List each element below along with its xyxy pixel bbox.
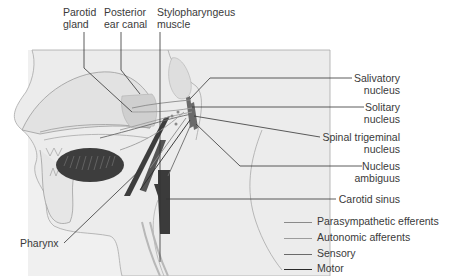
- label-line: nucleus: [364, 113, 400, 125]
- legend-swatch: [284, 269, 312, 270]
- legend-swatch: [284, 238, 312, 239]
- label-line: Parotid: [63, 6, 96, 18]
- label-line: nucleus: [354, 84, 400, 96]
- label-line: muscle: [157, 18, 235, 30]
- legend-swatch: [284, 254, 312, 255]
- legend-item-autonomic: Autonomic afferents: [284, 231, 410, 243]
- label-salivatory-nucleus: Salivatory nucleus: [354, 72, 400, 96]
- label-carotid-sinus: Carotid sinus: [339, 193, 400, 205]
- label-stylopharyngeus-muscle: Stylopharyngeus muscle: [157, 6, 235, 30]
- legend-label: Motor: [317, 262, 344, 274]
- label-parotid-gland: Parotid gland: [63, 6, 96, 30]
- legend-label: Sensory: [317, 247, 356, 259]
- label-line: ambiguus: [354, 172, 400, 184]
- legend-swatch: [284, 222, 312, 223]
- label-line: Solitary: [364, 101, 400, 113]
- legend-item-motor: Motor: [284, 262, 344, 274]
- label-line: Spinal trigeminal: [322, 131, 400, 143]
- legend-label: Parasympathetic efferents: [317, 215, 439, 227]
- label-line: nucleus: [322, 143, 400, 155]
- label-line: Stylopharyngeus: [157, 6, 235, 18]
- legend-label: Autonomic afferents: [317, 231, 410, 243]
- label-nucleus-ambiguus: Nucleus ambiguus: [354, 160, 400, 184]
- label-line: Salivatory: [354, 72, 400, 84]
- tongue: [56, 148, 124, 182]
- label-line: Posterior: [104, 6, 147, 18]
- label-line: Pharynx: [20, 237, 59, 249]
- label-posterior-ear-canal: Posterior ear canal: [104, 6, 147, 30]
- label-line: gland: [63, 18, 96, 30]
- legend-item-parasympathetic: Parasympathetic efferents: [284, 215, 439, 227]
- label-spinal-trigeminal-nucleus: Spinal trigeminal nucleus: [322, 131, 400, 155]
- label-pharynx: Pharynx: [20, 237, 59, 249]
- label-line: ear canal: [104, 18, 147, 30]
- label-solitary-nucleus: Solitary nucleus: [364, 101, 400, 125]
- label-line: Nucleus: [354, 160, 400, 172]
- label-line: Carotid sinus: [339, 193, 400, 205]
- legend-item-sensory: Sensory: [284, 247, 356, 259]
